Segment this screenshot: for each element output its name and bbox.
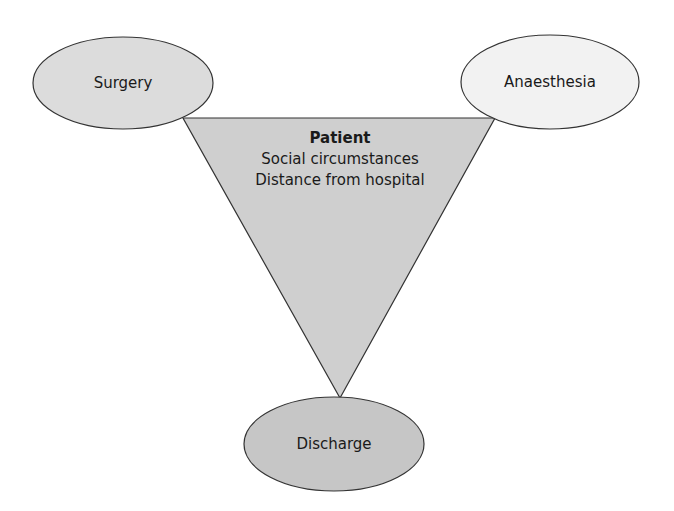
diagram-canvas: Surgery Anaesthesia Discharge Patient So… <box>0 0 674 511</box>
patient-factor-distance: Distance from hospital <box>255 171 424 189</box>
surgery-label: Surgery <box>94 74 153 92</box>
patient-factor-social: Social circumstances <box>261 150 419 168</box>
anaesthesia-label: Anaesthesia <box>504 73 596 91</box>
patient-title: Patient <box>309 129 370 147</box>
discharge-label: Discharge <box>296 435 371 453</box>
